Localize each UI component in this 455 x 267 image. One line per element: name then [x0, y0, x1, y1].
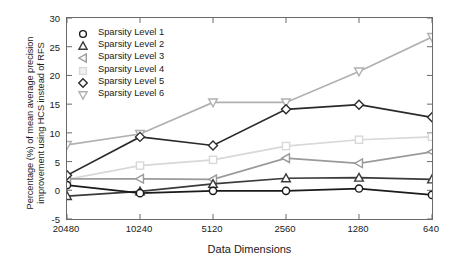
data-point-marker	[136, 174, 144, 183]
x-tick-label: 2560	[255, 223, 315, 234]
data-point-marker	[67, 141, 71, 149]
data-point-marker	[355, 100, 364, 109]
data-point-marker	[209, 156, 216, 163]
data-point-marker	[136, 190, 143, 197]
triangle-down-marker-icon	[70, 87, 96, 99]
x-tick-label: 10240	[109, 223, 169, 234]
legend-item-label: Sparsity Level 2	[96, 39, 164, 49]
data-point-marker	[282, 105, 291, 114]
data-point-marker	[428, 147, 432, 156]
legend-item[interactable]: Sparsity Level 6	[70, 87, 198, 99]
data-point-marker	[209, 187, 216, 194]
square-marker-icon	[70, 63, 96, 75]
triangle-up-marker-icon	[70, 38, 96, 50]
circle-marker-icon	[70, 26, 96, 38]
x-tick-label: 20480	[36, 223, 96, 234]
x-tick-label: 1280	[328, 223, 388, 234]
data-point-marker	[282, 187, 289, 194]
series-line	[67, 178, 432, 196]
chart-figure: Percentage (%) of mean average precision…	[0, 0, 455, 267]
data-point-marker	[209, 141, 218, 150]
legend-item[interactable]: Sparsity Level 1	[70, 26, 198, 38]
data-point-marker	[428, 33, 432, 41]
series-line	[67, 152, 432, 180]
y-tick-label: 5	[18, 156, 60, 167]
legend-item-label: Sparsity Level 1	[96, 27, 164, 37]
data-point-marker	[136, 162, 143, 169]
legend-item[interactable]: Sparsity Level 4	[70, 63, 198, 75]
legend-item-label: Sparsity Level 6	[96, 88, 164, 98]
data-point-marker	[355, 136, 362, 143]
legend-item-label: Sparsity Level 4	[96, 64, 164, 74]
legend-item[interactable]: Sparsity Level 3	[70, 50, 198, 62]
y-tick-label: 15	[18, 99, 60, 110]
data-point-marker	[282, 142, 289, 149]
legend-item[interactable]: Sparsity Level 5	[70, 75, 198, 87]
legend: Sparsity Level 1Sparsity Level 2Sparsity…	[70, 26, 198, 99]
data-point-marker	[428, 113, 433, 122]
legend-item-label: Sparsity Level 3	[96, 51, 164, 61]
x-axis-title: Data Dimensions	[66, 243, 433, 255]
y-tick-label: 10	[18, 127, 60, 138]
triangle-left-marker-icon	[70, 50, 96, 62]
data-point-marker	[428, 133, 432, 140]
x-tick-label: 640	[401, 223, 455, 234]
data-point-marker	[355, 159, 363, 168]
legend-item[interactable]: Sparsity Level 2	[70, 38, 198, 50]
y-tick-label: 25	[18, 41, 60, 52]
data-point-marker	[355, 185, 362, 192]
data-point-marker	[428, 191, 432, 198]
data-series	[67, 173, 432, 199]
legend-item-label: Sparsity Level 5	[96, 76, 164, 86]
series-line	[67, 105, 432, 176]
y-tick-label: 30	[18, 13, 60, 24]
data-series	[67, 182, 432, 199]
diamond-marker-icon	[70, 75, 96, 87]
data-point-marker	[67, 182, 71, 189]
x-tick-label: 5120	[182, 223, 242, 234]
y-tick-label: 20	[18, 70, 60, 81]
y-tick-label: 0	[18, 185, 60, 196]
data-series	[67, 133, 432, 183]
data-point-marker	[282, 154, 290, 163]
series-line	[67, 137, 432, 179]
